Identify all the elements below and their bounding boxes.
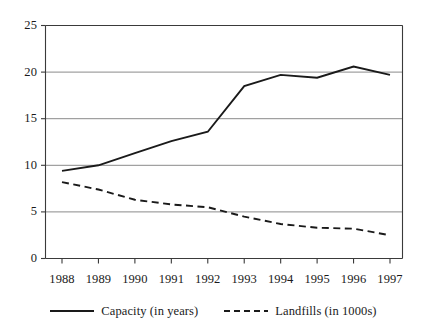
legend-label-landfills: Landfills (in 1000s) bbox=[275, 305, 376, 318]
x-tick-label: 1996 bbox=[334, 273, 374, 286]
y-tick-label: 25 bbox=[11, 19, 37, 32]
legend-swatch-solid-icon bbox=[50, 306, 94, 316]
x-tick-label: 1988 bbox=[42, 273, 82, 286]
legend-label-capacity: Capacity (in years) bbox=[101, 305, 198, 318]
y-tick-label: 15 bbox=[11, 112, 37, 125]
chart-legend: Capacity (in years) Landfills (in 1000s) bbox=[0, 300, 427, 322]
x-tick-label: 1994 bbox=[261, 273, 301, 286]
legend-item-landfills[interactable]: Landfills (in 1000s) bbox=[224, 305, 376, 318]
x-tick-label: 1990 bbox=[115, 273, 155, 286]
x-tick-label: 1995 bbox=[297, 273, 337, 286]
x-tick-label: 1997 bbox=[370, 273, 410, 286]
x-tick-label: 1992 bbox=[188, 273, 228, 286]
legend-swatch-dashed-icon bbox=[224, 306, 268, 316]
y-tick-label: 20 bbox=[11, 66, 37, 79]
x-tick-label: 1989 bbox=[78, 273, 118, 286]
x-tick-label: 1993 bbox=[224, 273, 264, 286]
line-chart: 0510152025 19881989199019911992199319941… bbox=[0, 0, 427, 331]
y-tick-label: 10 bbox=[11, 159, 37, 172]
legend-item-capacity[interactable]: Capacity (in years) bbox=[50, 305, 198, 318]
grid-lines bbox=[46, 26, 403, 259]
y-tick-label: 0 bbox=[11, 252, 37, 265]
y-tick-label: 5 bbox=[11, 205, 37, 218]
x-tick-label: 1991 bbox=[151, 273, 191, 286]
